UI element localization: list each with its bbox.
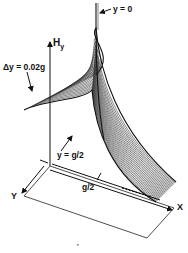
surface-diagram: Hy y = 0 Δy = 0.02g y = g/2 g/2 X Y ' — [0, 0, 188, 253]
hy-axis-label: Hy — [53, 37, 64, 51]
y-axis-guide — [40, 160, 48, 163]
spike-label-pointer — [100, 9, 111, 13]
y-axis-label: Y — [11, 191, 17, 201]
edge-label: y = g/2 — [57, 150, 84, 160]
surface-curve — [64, 66, 167, 191]
x-axis-label: X — [177, 202, 183, 212]
surface-curves — [24, 28, 176, 202]
gap-tick — [97, 173, 101, 180]
surface-curve — [93, 37, 175, 183]
spike-label: y = 0 — [113, 4, 132, 14]
spacing-label-pointer — [27, 72, 32, 91]
spacing-label: Δy = 0.02g — [3, 62, 45, 72]
surface-curve — [61, 68, 166, 192]
y-axis — [22, 166, 44, 193]
edge-label-pointer — [61, 136, 72, 151]
bottom-mark: ' — [77, 243, 79, 250]
gap-label: g/2 — [82, 182, 95, 192]
